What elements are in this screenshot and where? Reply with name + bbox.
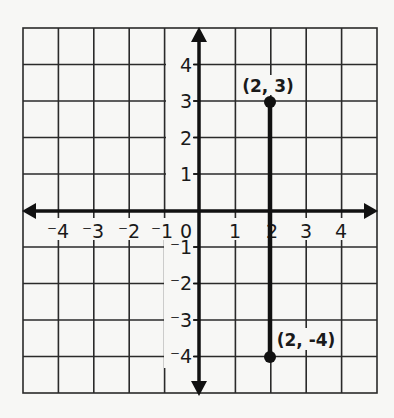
- y-tick-neg1: ⁻1: [170, 236, 192, 258]
- x-tick-neg4: ⁻4: [47, 220, 69, 242]
- y-axis-up-arrow-icon: [191, 27, 207, 42]
- x-axis-left-arrow-icon: [22, 203, 36, 219]
- x-tick-neg3: ⁻3: [82, 220, 104, 242]
- point-2-3: [264, 96, 276, 108]
- y-tick-neg2: ⁻2: [170, 272, 192, 294]
- x-tick-3: 3: [300, 220, 312, 242]
- y-tick-neg3: ⁻3: [170, 309, 192, 331]
- y-tick-neg4: ⁻4: [170, 345, 192, 367]
- x-axis-right-arrow-icon: [364, 203, 378, 219]
- y-tick-3: 3: [180, 90, 192, 112]
- point-2-neg4: [264, 351, 276, 363]
- x-tick-neg2: ⁻2: [118, 220, 140, 242]
- y-tick-1: 1: [180, 163, 192, 185]
- x-tick-4: 4: [335, 220, 347, 242]
- x-tick-1: 1: [229, 220, 241, 242]
- y-tick-2: 2: [180, 127, 192, 149]
- y-tick-4: 4: [180, 54, 192, 76]
- coordinate-plane: ⁻4 ⁻3 ⁻2 ⁻1 0 1 2 3 4 4 3 2 1 ⁻1 ⁻2 ⁻3 ⁻…: [0, 0, 394, 418]
- point-label-2-3: (2, 3): [242, 76, 294, 96]
- point-label-2-neg4: (2, -4): [277, 330, 336, 350]
